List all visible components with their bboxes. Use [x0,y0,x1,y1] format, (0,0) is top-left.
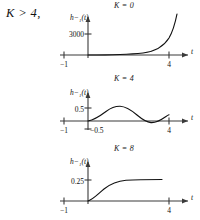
condition-annotation: K > 4, [6,6,41,21]
plot-area-k8 [48,144,200,220]
plot-area-k0 [48,0,200,74]
plot-area-k4 [48,74,200,144]
step-response-figure: K > 4, K = 0 h−₁(t) 3000 −1 4 t [0,0,200,220]
chart-panel-k0: K = 0 h−₁(t) 3000 −1 4 t [48,0,200,74]
chart-panel-k4: K = 4 h−₁(t) 0.5 −0.5 −1 4 t [48,74,200,144]
chart-panel-k8: K = 8 h−₁(t) 0.25 −1 4 t [48,144,200,220]
